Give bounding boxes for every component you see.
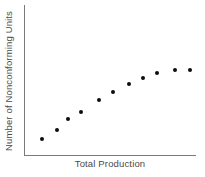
data-point [173, 68, 177, 72]
plot-area [25, 5, 196, 155]
y-axis-label-container: Number of Nonconforming Units [0, 5, 16, 156]
data-point [111, 90, 115, 94]
data-point [79, 110, 83, 114]
data-point [97, 98, 101, 102]
data-point [66, 117, 70, 121]
data-point [141, 76, 145, 80]
x-axis-label: Total Production [24, 158, 196, 169]
data-point [55, 128, 59, 132]
data-point [188, 68, 192, 72]
y-axis-label: Number of Nonconforming Units [3, 10, 14, 150]
data-point [40, 137, 44, 141]
data-point [155, 71, 159, 75]
data-point [127, 82, 131, 86]
scatter-plot-figure: Number of Nonconforming Units Total Prod… [0, 0, 205, 177]
x-axis-line [24, 155, 196, 156]
